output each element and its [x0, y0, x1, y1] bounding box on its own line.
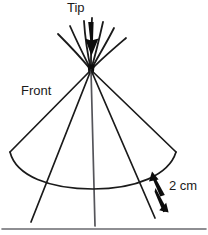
bristle-left [70, 26, 91, 70]
cone-edge-right [91, 70, 176, 152]
cone-brush-diagram [0, 0, 208, 235]
bristle-right [91, 28, 114, 70]
cone-rib-center [91, 70, 95, 226]
cone-rib-right [91, 70, 155, 218]
label-tip: Tip [67, 1, 85, 14]
measure-double-arrow-icon [149, 172, 169, 213]
label-front: Front [21, 84, 51, 97]
figure-canvas: Tip Front 2 cm [0, 0, 208, 235]
label-measurement: 2 cm [169, 179, 197, 192]
